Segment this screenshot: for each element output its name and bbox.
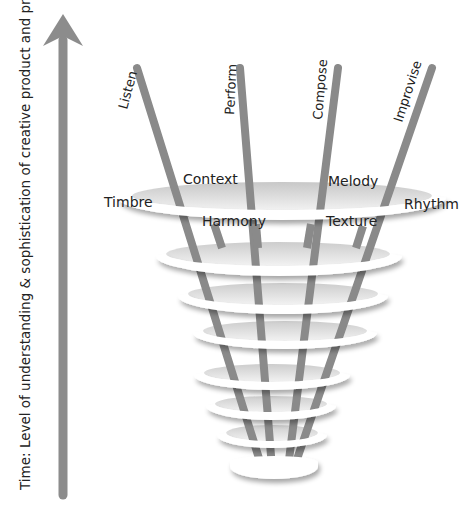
ring-8 [230,456,318,479]
axis-label: Time: Level of understanding & sophistic… [17,0,33,491]
element-label-context: Context [183,171,238,187]
pole-label-listen: Listen [115,69,140,111]
pole-label-perform: Perform [222,63,240,115]
time-axis-arrow [43,14,83,495]
element-label-harmony: Harmony [202,213,266,229]
element-label-timbre: Timbre [103,194,153,210]
element-label-rhythm: Rhythm [404,196,459,212]
spiral-curriculum-diagram: Time: Level of understanding & sophistic… [0,0,470,512]
element-label-texture: Texture [325,213,377,229]
element-label-melody: Melody [328,173,378,189]
pole-label-compose: Compose [310,59,330,121]
